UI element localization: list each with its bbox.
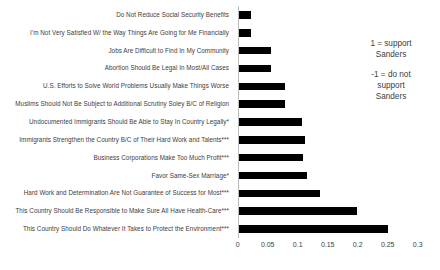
annotation-line-5: Sanders: [345, 91, 437, 102]
category-label: Business Corporations Make Too Much Prof…: [0, 154, 232, 162]
x-axis-tick-label: 0.25: [381, 241, 395, 248]
bar: [239, 65, 271, 73]
bar: [239, 207, 357, 215]
category-label: Do Not Reduce Social Security Benefits: [0, 11, 232, 19]
annotation-line-1: 1 = support: [345, 38, 437, 49]
x-axis-tick-label: 0.15: [321, 241, 335, 248]
bar: [239, 154, 303, 162]
category-label: I'm Not Very Satisfied W/ the Way Things…: [0, 29, 232, 37]
category-label: Jobs Are Difficult to Find In My Communi…: [0, 47, 232, 55]
annotation-line-2: Sanders: [345, 49, 437, 60]
bar: [239, 225, 388, 233]
bar: [239, 172, 307, 180]
bar: [239, 11, 252, 19]
bar: [239, 83, 285, 91]
annotation-line-3: -1 = do not: [345, 69, 437, 80]
category-label: Abortion Should Be Legal In Most/All Cas…: [0, 64, 232, 72]
category-label: Favor Same-Sex Marriage*: [0, 172, 232, 180]
bar: [239, 47, 271, 55]
x-axis-tick-label: 0.2: [353, 241, 363, 248]
annotation-line-4: support: [345, 80, 437, 91]
x-axis-tick-label: 0.05: [261, 241, 275, 248]
bar: [239, 190, 320, 198]
category-label: Hard Work and Determination Are Not Guar…: [0, 189, 232, 197]
bar: [239, 118, 302, 126]
category-label: This Country Should Do Whatever It Takes…: [0, 225, 232, 233]
x-axis-tick-label: 0.3: [413, 241, 423, 248]
bar: [239, 29, 252, 37]
annotation-spacer: [345, 60, 437, 69]
category-label: This Country Should Be Responsible to Ma…: [0, 207, 232, 215]
category-label: Immigrants Strengthen the Country B/C of…: [0, 136, 232, 144]
category-label: Undocumented Immigrants Should Be Able t…: [0, 118, 232, 126]
x-axis-tick-label: 0: [236, 241, 240, 248]
bar: [239, 136, 306, 144]
chart-annotation: 1 = support Sanders -1 = do not support …: [345, 38, 437, 102]
bar: [239, 100, 286, 108]
x-axis-tick-label: 0.1: [293, 241, 303, 248]
value-axis-ticks: 00.050.10.150.20.250.3: [238, 238, 438, 260]
category-axis-labels: Do Not Reduce Social Security BenefitsI'…: [0, 6, 232, 238]
bar-chart: Do Not Reduce Social Security BenefitsI'…: [0, 0, 440, 270]
category-label: U.S. Efforts to Solve World Problems Usu…: [0, 82, 232, 90]
category-label: Muslims Should Not Be Subject to Additio…: [0, 100, 232, 108]
